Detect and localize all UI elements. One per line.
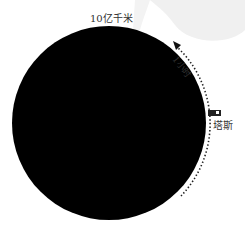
scale-label: 10亿千米 (90, 10, 133, 25)
object-label: 塔斯 (213, 117, 233, 132)
background-shape (133, 0, 245, 41)
diagram-canvas (0, 0, 245, 231)
object-marker (208, 110, 221, 116)
